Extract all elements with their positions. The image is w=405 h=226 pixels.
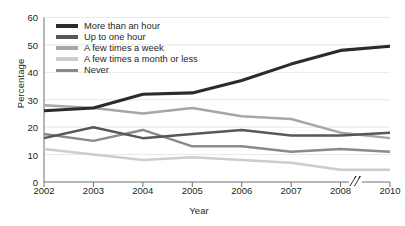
x-tick-label: 2006 (220, 186, 264, 196)
x-tick-label: 2010 (368, 186, 405, 196)
x-tick-label: 2008 (319, 186, 363, 196)
series-line (44, 149, 390, 170)
legend-label: Never (84, 65, 109, 75)
legend-item: A few times a month or less (56, 54, 198, 65)
x-tick-label: 2005 (170, 186, 214, 196)
legend-swatch (56, 46, 78, 50)
x-axis-title: Year (0, 205, 398, 216)
legend-item: Never (56, 65, 198, 76)
legend-swatch (56, 69, 78, 73)
x-tick-label: 2007 (269, 186, 313, 196)
x-tick-label: 2002 (22, 186, 66, 196)
legend-swatch (56, 57, 78, 61)
legend-item: Up to one hour (56, 31, 198, 42)
legend-label: Up to one hour (84, 32, 146, 42)
x-tick-label: 2003 (71, 186, 115, 196)
legend-item: A few times a week (56, 42, 198, 53)
legend-swatch (56, 24, 78, 28)
chart-legend: More than an hourUp to one hourA few tim… (56, 20, 198, 76)
legend-item: More than an hour (56, 20, 198, 31)
legend-label: A few times a month or less (84, 54, 198, 64)
legend-label: More than an hour (84, 21, 160, 31)
legend-label: A few times a week (84, 43, 164, 53)
legend-swatch (56, 35, 78, 39)
x-tick-label: 2004 (121, 186, 165, 196)
